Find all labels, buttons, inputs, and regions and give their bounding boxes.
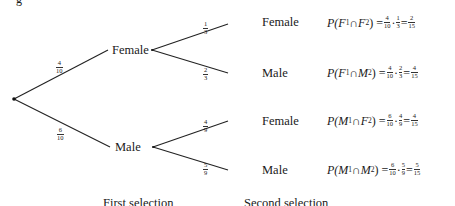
formula-female-female: P(F1 ∩ F2) = 410 · 13 = 215 [327,16,416,30]
probability-tree-diagram: g 410 610 Female Male 13 23 49 59 Female… [0,0,455,206]
prob-root-male: 610 [57,127,64,141]
formula-male-male: P(M1 ∩ M2) = 610 · 59 = 515 [327,163,421,177]
node-first-male: Male [115,140,141,154]
prob-female-male: 23 [203,67,208,81]
formula-male-female: P(M1 ∩ F2) = 610 · 49 = 415 [327,114,419,128]
prob-female-female: 13 [203,21,208,35]
edge-root-female [14,50,108,99]
node-second-female-male: Male [262,66,288,80]
female-branch-node [151,49,153,51]
edge-male-male [153,147,228,170]
prob-male-female: 49 [203,119,208,133]
male-branch-node [152,146,154,148]
edge-female-female [152,24,228,50]
node-second-female-female: Female [262,15,299,29]
prob-male-male: 59 [203,162,208,176]
node-second-male-male: Male [262,163,288,177]
prob-root-female: 410 [56,60,63,74]
formula-female-male: P(F1 ∩ M2) = 410 · 23 = 415 [327,66,419,80]
edge-male-female [153,121,228,147]
root-node [12,97,16,101]
node-second-male-female: Female [262,114,299,128]
node-first-female: Female [112,43,149,57]
edge-female-male [152,50,228,73]
caption-first-selection: First selection [103,196,173,206]
caption-second-selection: Second selection [244,196,328,206]
